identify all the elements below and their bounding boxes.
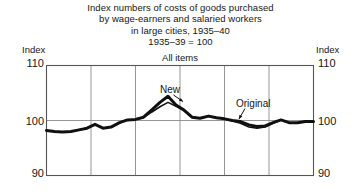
plot-area bbox=[0, 0, 361, 194]
chart-figure: Index numbers of costs of goods purchase… bbox=[0, 0, 361, 194]
annotation-label-original: Original bbox=[236, 98, 270, 109]
leader-new-head bbox=[179, 98, 183, 102]
annotation-label-new: New bbox=[160, 84, 180, 95]
